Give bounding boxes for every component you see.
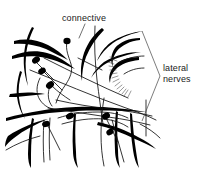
- label-lateral-nerves-line2: nerves: [163, 74, 191, 84]
- figure-root: connective lateral nerves: [0, 0, 200, 170]
- nerve-plexus-diagram: connective lateral nerves: [0, 0, 200, 170]
- label-lateral-nerves-line1: lateral: [163, 63, 188, 73]
- label-connective: connective: [62, 13, 106, 23]
- soma-4: [63, 38, 70, 44]
